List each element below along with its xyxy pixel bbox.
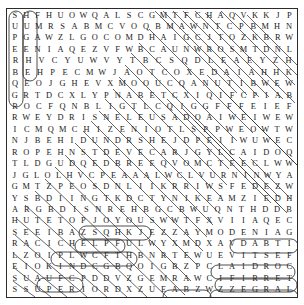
grid-letter[interactable]: I [55, 263, 66, 271]
grid-letter[interactable]: W [169, 217, 180, 225]
grid-letter[interactable]: I [226, 137, 237, 145]
grid-letter[interactable]: W [192, 275, 203, 283]
grid-letter[interactable]: P [200, 126, 212, 134]
grid-letter[interactable]: E [203, 137, 214, 145]
grid-letter[interactable]: P [32, 149, 43, 157]
grid-letter[interactable]: I [169, 34, 180, 42]
grid-letter[interactable]: I [240, 172, 251, 180]
grid-letter[interactable]: E [78, 240, 89, 248]
grid-letter[interactable]: G [9, 183, 20, 191]
grid-letter[interactable]: H [64, 172, 75, 180]
grid-letter[interactable]: S [165, 57, 178, 65]
grid-letter[interactable]: A [158, 34, 169, 42]
grid-letter[interactable]: A [20, 240, 31, 248]
grid-letter[interactable]: E [158, 137, 169, 145]
grid-letter[interactable]: L [53, 172, 64, 180]
grid-letter[interactable]: I [226, 217, 237, 225]
grid-letter[interactable]: T [235, 206, 247, 214]
grid-letter[interactable]: D [226, 229, 237, 237]
grid-letter[interactable]: I [238, 252, 249, 260]
grid-letter[interactable]: H [34, 69, 46, 77]
grid-letter[interactable]: S [146, 217, 157, 225]
grid-letter[interactable]: I [43, 46, 54, 54]
grid-letter[interactable]: I [69, 206, 81, 214]
grid-letter[interactable]: D [55, 114, 66, 122]
grid-letter[interactable]: C [164, 80, 176, 88]
grid-letter[interactable]: G [89, 195, 100, 203]
grid-letter[interactable]: Y [61, 57, 74, 65]
grid-letter[interactable]: I [192, 183, 203, 191]
grid-letter[interactable]: Z [78, 229, 89, 237]
grid-letter[interactable]: A [32, 34, 43, 42]
grid-letter[interactable]: H [55, 137, 66, 145]
grid-letter[interactable]: A [249, 217, 260, 225]
grid-letter[interactable]: O [152, 126, 164, 134]
grid-letter[interactable]: W [188, 23, 200, 31]
grid-letter[interactable]: B [81, 103, 93, 111]
grid-letter[interactable]: O [21, 103, 33, 111]
grid-letter[interactable]: N [283, 23, 295, 31]
grid-letter[interactable]: Y [273, 172, 284, 180]
grid-letter[interactable]: P [192, 137, 203, 145]
grid-letter[interactable]: U [200, 206, 212, 214]
grid-letter[interactable]: V [123, 149, 134, 157]
grid-letter[interactable]: R [101, 286, 112, 294]
grid-letter[interactable]: T [32, 183, 43, 191]
grid-letter[interactable]: M [20, 183, 31, 191]
grid-letter[interactable]: G [249, 286, 260, 294]
grid-letter[interactable]: J [20, 137, 31, 145]
grid-letter[interactable]: M [158, 12, 169, 20]
grid-letter[interactable]: R [123, 160, 134, 168]
grid-letter[interactable]: W [262, 172, 273, 180]
grid-letter[interactable]: U [89, 137, 100, 145]
grid-letter[interactable]: X [183, 69, 195, 77]
grid-letter[interactable]: B [135, 46, 146, 54]
grid-letter[interactable]: A [215, 195, 226, 203]
grid-letter[interactable]: D [192, 240, 203, 248]
grid-letter[interactable]: W [284, 34, 295, 42]
grid-letter[interactable]: E [32, 114, 43, 122]
grid-letter[interactable]: A [272, 92, 283, 100]
grid-letter[interactable]: J [89, 217, 100, 225]
grid-letter[interactable]: X [181, 92, 192, 100]
grid-letter[interactable]: B [169, 263, 180, 271]
grid-letter[interactable]: C [203, 160, 214, 168]
grid-letter[interactable]: C [169, 92, 180, 100]
grid-letter[interactable]: G [43, 160, 54, 168]
grid-letter[interactable]: A [181, 275, 192, 283]
grid-letter[interactable]: H [270, 69, 282, 77]
grid-letter[interactable]: C [33, 103, 45, 111]
grid-letter[interactable]: M [116, 80, 128, 88]
grid-letter[interactable]: L [135, 240, 146, 248]
grid-letter[interactable]: B [261, 34, 272, 42]
grid-letter[interactable]: A [101, 12, 112, 20]
grid-letter[interactable]: L [284, 46, 295, 54]
grid-letter[interactable]: I [66, 195, 77, 203]
grid-letter[interactable]: Y [192, 229, 203, 237]
grid-letter[interactable]: E [43, 217, 54, 225]
grid-letter[interactable]: N [112, 183, 123, 191]
grid-letter[interactable]: E [21, 69, 33, 77]
grid-letter[interactable]: T [146, 69, 158, 77]
grid-letter[interactable]: N [200, 23, 212, 31]
grid-letter[interactable]: O [42, 172, 53, 180]
grid-letter[interactable]: W [192, 252, 203, 260]
grid-letter[interactable]: Z [181, 263, 192, 271]
grid-letter[interactable]: A [230, 57, 243, 65]
grid-letter[interactable]: F [112, 46, 123, 54]
grid-letter[interactable]: F [192, 217, 203, 225]
grid-letter[interactable]: D [89, 275, 100, 283]
grid-letter[interactable]: C [238, 92, 249, 100]
grid-letter[interactable]: C [164, 206, 176, 214]
grid-letter[interactable]: Q [178, 57, 191, 65]
grid-letter[interactable]: R [20, 92, 31, 100]
grid-letter[interactable]: B [283, 206, 295, 214]
grid-letter[interactable]: C [152, 57, 165, 65]
grid-letter[interactable]: V [100, 57, 113, 65]
grid-letter[interactable]: R [169, 275, 180, 283]
grid-letter[interactable]: I [235, 80, 247, 88]
grid-letter[interactable]: W [78, 252, 89, 260]
grid-letter[interactable]: U [9, 23, 21, 31]
grid-letter[interactable]: C [71, 69, 83, 77]
grid-letter[interactable]: E [116, 126, 128, 134]
